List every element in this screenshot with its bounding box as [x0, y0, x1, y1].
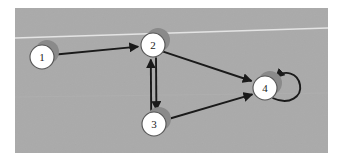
graph-node-2[interactable]: 2	[141, 33, 165, 57]
node-label-1: 1	[39, 51, 45, 63]
graph-figure: 1 2 3 4	[0, 0, 343, 161]
graph-node-3[interactable]: 3	[142, 112, 166, 136]
graph-node-4[interactable]: 4	[253, 76, 277, 100]
node-label-3: 3	[151, 118, 157, 130]
graph-canvas: 1 2 3 4	[0, 0, 343, 161]
graph-node-1[interactable]: 1	[30, 45, 54, 69]
node-label-2: 2	[150, 39, 156, 51]
node-label-4: 4	[262, 82, 268, 94]
